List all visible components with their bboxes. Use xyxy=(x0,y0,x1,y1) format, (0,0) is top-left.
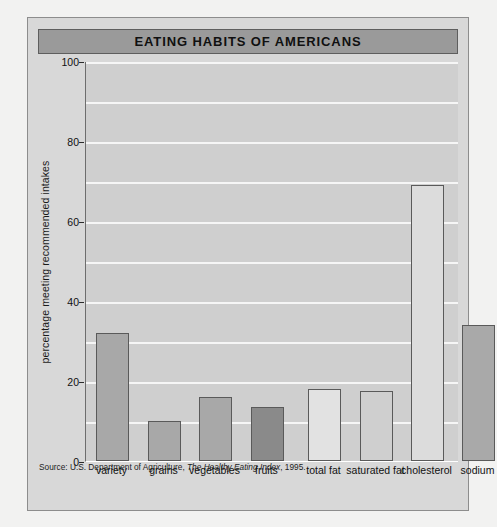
source-suffix: , 1995. xyxy=(280,462,305,472)
bar-saturated-fat xyxy=(360,391,393,461)
bar-vegetables xyxy=(199,397,232,461)
y-tick-mark xyxy=(79,302,84,303)
page-title: EATING HABITS OF AMERICANS xyxy=(134,34,361,49)
bar-fruits xyxy=(251,407,284,461)
y-tick-mark xyxy=(79,382,84,383)
y-axis-ticks: 020406080100 xyxy=(54,62,84,462)
source-publication-title: The Healthy Eating Index xyxy=(187,462,280,472)
plot-area xyxy=(85,62,458,462)
x-tick-label-sodium: sodium xyxy=(447,464,497,477)
y-tick-label: 20 xyxy=(67,376,79,388)
y-tick-label: 100 xyxy=(61,56,79,68)
y-tick-mark xyxy=(79,222,84,223)
y-tick-label: 60 xyxy=(67,216,79,228)
source-note: Source: U.S. Department of Agriculture, … xyxy=(39,462,306,472)
bar-series xyxy=(86,62,458,461)
bar-cholesterol xyxy=(411,185,444,461)
y-tick-mark xyxy=(79,142,84,143)
y-axis-label-text: percentage meeting recommended intakes xyxy=(39,161,51,364)
bar-variety xyxy=(96,333,129,461)
y-tick-label: 40 xyxy=(67,296,79,308)
chart-title-bar: EATING HABITS OF AMERICANS xyxy=(38,29,458,54)
bar-total-fat xyxy=(308,389,341,461)
y-tick-label: 80 xyxy=(67,136,79,148)
chart-plot-region: percentage meeting recommended intakes 0… xyxy=(38,62,458,487)
y-axis-label: percentage meeting recommended intakes xyxy=(36,62,54,462)
chart-figure: EATING HABITS OF AMERICANS percentage me… xyxy=(27,17,469,511)
bar-sodium xyxy=(462,325,495,461)
bar-grains xyxy=(148,421,181,461)
source-prefix: Source: U.S. Department of Agriculture, xyxy=(39,462,187,472)
y-tick-mark xyxy=(79,62,84,63)
